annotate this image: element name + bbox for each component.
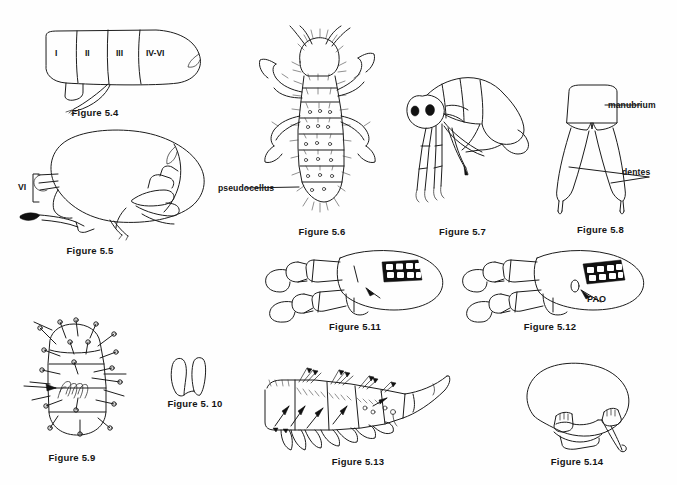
label-segment-vi: VI — [18, 182, 26, 192]
caption-figure-5-10: Figure 5. 10 — [155, 398, 235, 409]
figure-plate: I II III IV-VI Figure 5.4 — [0, 0, 677, 485]
figure-5-6 — [258, 26, 378, 216]
figure-5-13 — [255, 368, 455, 453]
figure-5-9 — [16, 320, 141, 448]
segment-label-4-6: IV-VI — [146, 48, 164, 58]
segment-label-3: III — [116, 48, 123, 58]
figure-5-11 — [262, 248, 457, 320]
figure-5-7-drawing — [400, 62, 535, 212]
caption-figure-5-5: Figure 5.5 — [35, 245, 145, 256]
figure-5-4: I II III IV-VI — [36, 22, 216, 107]
figure-5-5-drawing — [14, 128, 214, 238]
segment-label-2: II — [85, 48, 90, 58]
figure-5-6-drawing — [258, 26, 378, 216]
caption-figure-5-13: Figure 5.13 — [308, 456, 408, 467]
figure-5-14-drawing — [498, 362, 643, 454]
figure-5-10-drawing — [162, 355, 222, 400]
caption-figure-5-8: Figure 5.8 — [548, 224, 653, 235]
bracket-vi-icon — [30, 173, 42, 203]
figure-5-4-drawing — [36, 22, 216, 107]
figure-5-14 — [498, 362, 643, 454]
figure-5-11-drawing — [262, 248, 457, 320]
figure-5-12 — [457, 248, 657, 320]
figure-5-10 — [162, 355, 222, 400]
figure-5-12-drawing — [457, 248, 657, 320]
figure-5-7 — [400, 62, 535, 212]
figure-5-5: VI — [14, 128, 214, 238]
figure-5-13-drawing — [255, 368, 455, 453]
caption-figure-5-12: Figure 5.12 — [500, 321, 600, 332]
caption-figure-5-6: Figure 5.6 — [272, 226, 372, 237]
caption-figure-5-14: Figure 5.14 — [527, 456, 627, 467]
segment-label-1: I — [55, 48, 57, 58]
caption-figure-5-9: Figure 5.9 — [22, 452, 122, 463]
label-dentes: dentes — [622, 167, 650, 177]
label-pao: PAO — [587, 294, 606, 304]
caption-figure-5-4: Figure 5.4 — [40, 107, 150, 118]
label-manubrium: manubrium — [608, 100, 656, 110]
caption-figure-5-7: Figure 5.7 — [410, 226, 515, 237]
figure-5-9-drawing — [16, 320, 141, 448]
label-pseudocellus: pseudocellus — [218, 183, 274, 193]
caption-figure-5-11: Figure 5.11 — [305, 321, 405, 332]
